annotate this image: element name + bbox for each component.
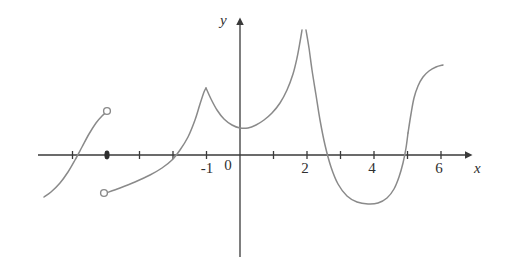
curve-branch-5-far-right	[408, 65, 443, 133]
filled-dot-on-axis	[104, 151, 109, 160]
tick-label-6: 6	[430, 160, 448, 177]
graph-canvas	[0, 0, 508, 273]
open-circle-end-branch-1	[104, 108, 111, 115]
x-axis-label: x	[474, 160, 481, 177]
tick-label-4: 4	[363, 160, 381, 177]
function-graph-figure: y x 0 -1 2 4 6	[0, 0, 508, 273]
tick-label-neg1: -1	[195, 160, 219, 177]
origin-label: 0	[219, 157, 237, 174]
open-circle-start-branch-2	[101, 190, 108, 197]
y-axis-label: y	[220, 12, 227, 29]
axes-group	[38, 24, 466, 257]
function-curves	[44, 30, 443, 204]
curve-branch-2-left	[106, 88, 206, 193]
endpoint-markers	[101, 108, 111, 197]
curve-branch-3-middle	[206, 30, 302, 128]
tick-label-2: 2	[296, 160, 314, 177]
curve-branch-4-right-of-asymptote	[306, 30, 408, 204]
